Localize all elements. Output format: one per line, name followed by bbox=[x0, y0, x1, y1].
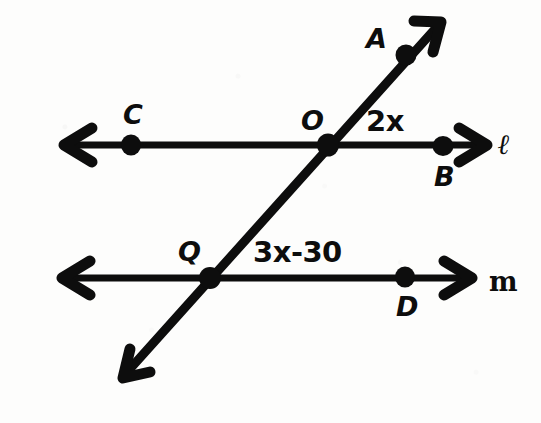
line-label-m: m bbox=[489, 268, 518, 295]
point-b-dot bbox=[433, 136, 454, 156]
point-label-c: C bbox=[123, 101, 143, 128]
point-a-dot bbox=[396, 45, 417, 66]
transversal-line bbox=[123, 21, 441, 378]
point-label-q: Q bbox=[178, 238, 201, 265]
transversal-shaft bbox=[129, 29, 435, 370]
line-label-l: ℓ bbox=[498, 131, 510, 159]
angle-label-2x: 2x bbox=[366, 107, 404, 136]
point-d-dot bbox=[395, 267, 415, 288]
geometry-figure: C O B A Q D 2x 3x-30 ℓ m bbox=[0, 0, 541, 423]
point-label-d: D bbox=[396, 293, 418, 320]
point-q-dot bbox=[199, 267, 221, 289]
point-c-dot bbox=[121, 135, 141, 156]
geometry-drawing-canvas bbox=[0, 0, 541, 423]
point-o-dot bbox=[317, 134, 339, 157]
angle-label-3x-30: 3x-30 bbox=[253, 238, 342, 267]
point-label-b: B bbox=[434, 163, 455, 190]
point-label-o: O bbox=[301, 107, 324, 134]
point-label-a: A bbox=[366, 25, 387, 52]
